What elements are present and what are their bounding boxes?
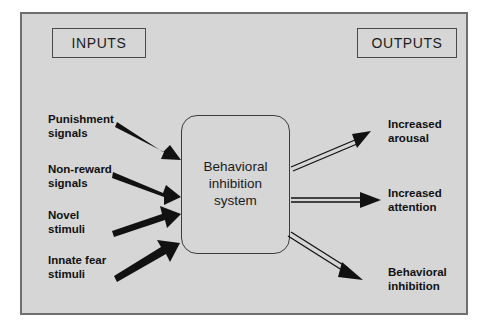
inputs-header-label: INPUTS (72, 35, 127, 51)
outputs-header-label: OUTPUTS (371, 35, 442, 51)
output-label-increased-attention: Increased attention (388, 186, 442, 214)
input-label-punishment-signals: Punishment signals (48, 112, 114, 140)
output-label-behavioral-inhibition: Behavioral inhibition (388, 265, 447, 293)
output-label-increased-arousal: Increased arousal (388, 117, 442, 145)
input-label-non-reward-signals: Non-reward signals (48, 162, 112, 190)
behavioral-inhibition-system-box: Behavioral inhibition system (181, 115, 290, 254)
outputs-header-box: OUTPUTS (357, 28, 457, 58)
inputs-header-box: INPUTS (52, 28, 146, 58)
input-label-novel-stimuli: Novel stimuli (48, 208, 85, 236)
input-label-innate-fear-stimuli: Innate fear stimuli (48, 253, 106, 281)
center-box-label: Behavioral inhibition system (204, 159, 268, 210)
bis-diagram: INPUTS OUTPUTS Behavioral inhibition sys… (0, 0, 490, 334)
